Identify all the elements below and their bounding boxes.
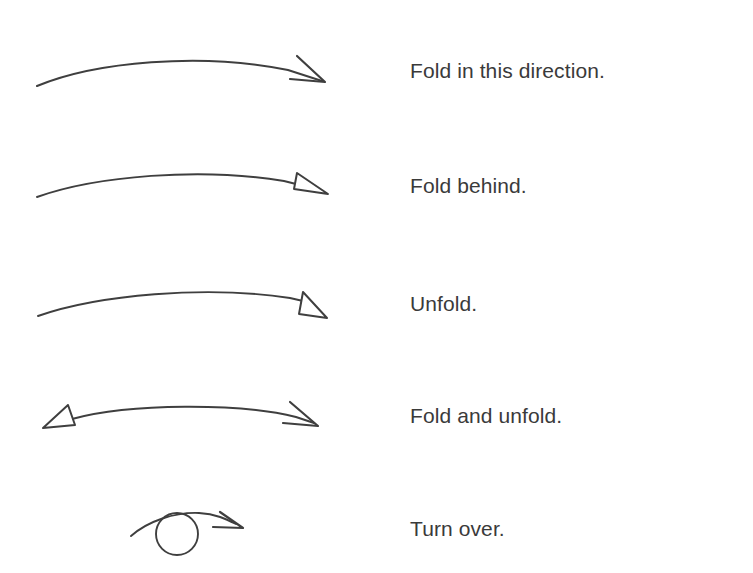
legend-canvas: Fold in this direction. Fold behind. Unf… <box>0 0 753 573</box>
legend-label-turn-over: Turn over. <box>410 518 505 539</box>
turn-over-loop-arrow-icon <box>0 0 753 573</box>
